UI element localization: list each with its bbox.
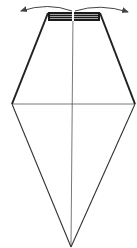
kite-upper-left-edge xyxy=(12,13,48,104)
pleat-band xyxy=(48,12,100,21)
arrow-right-icon xyxy=(75,7,128,12)
vertical-center-crease xyxy=(71,14,73,246)
kite-lower-right-edge xyxy=(71,104,135,247)
kite-lower-left-edge xyxy=(12,104,71,247)
kite-upper-right-edge xyxy=(100,13,135,104)
arrow-left-icon xyxy=(21,7,72,12)
origami-diagram xyxy=(0,0,137,248)
